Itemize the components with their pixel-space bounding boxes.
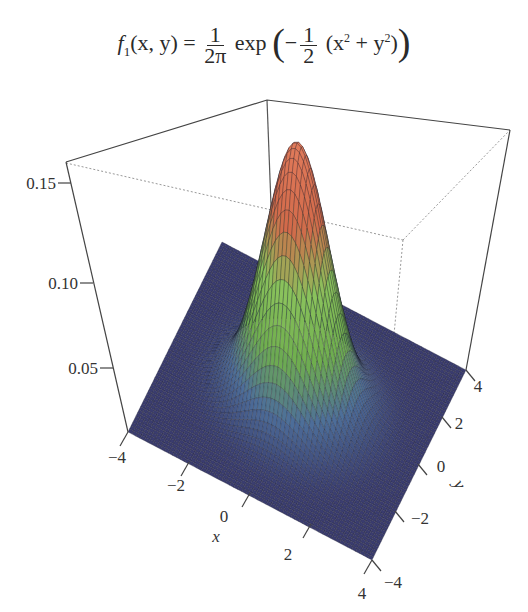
x-tick--2: −2 xyxy=(167,476,185,495)
y-tick--4: −4 xyxy=(384,573,403,592)
y-axis-label: y xyxy=(449,475,470,493)
x-tick-0: 0 xyxy=(220,507,229,526)
y-tick-4: 4 xyxy=(474,377,483,396)
x-tick-2: 2 xyxy=(284,545,293,564)
z-tick-0.15: 0.15 xyxy=(26,174,56,193)
gaussian-surface xyxy=(128,142,466,560)
y-tick--2: −2 xyxy=(411,509,429,528)
x-axis-label: x xyxy=(211,527,220,546)
x-tick-4: 4 xyxy=(358,584,367,603)
z-tick-0.05: 0.05 xyxy=(68,359,98,378)
z-tick-0.10: 0.10 xyxy=(48,274,78,293)
surface-plot: 0.15 0.10 0.05 −4 −2 0 x 2 4 4 2 0 y −2 … xyxy=(0,0,528,612)
x-tick--4: −4 xyxy=(108,448,127,467)
y-tick-0: 0 xyxy=(437,457,446,476)
y-tick-2: 2 xyxy=(455,414,464,433)
